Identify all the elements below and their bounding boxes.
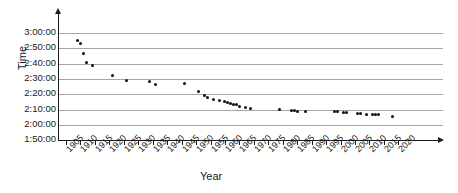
y-tick-label: 2:10:00 <box>4 104 56 114</box>
x-axis-arrow-icon <box>438 137 444 143</box>
data-point <box>296 110 299 113</box>
y-tick-label: 3:00:00 <box>4 27 56 37</box>
data-point <box>125 79 128 82</box>
data-point <box>197 90 200 93</box>
data-point <box>91 64 94 67</box>
data-point <box>183 82 186 85</box>
y-tick-label: 2:30:00 <box>4 73 56 83</box>
y-axis-line <box>58 14 59 140</box>
data-point <box>148 80 151 83</box>
gridline <box>58 94 443 95</box>
gridline <box>58 48 443 49</box>
data-point <box>359 112 362 115</box>
data-point <box>336 110 339 113</box>
data-point <box>377 113 380 116</box>
data-point <box>391 115 394 118</box>
gridline <box>58 64 443 65</box>
data-point <box>111 74 114 77</box>
gridline <box>58 125 443 126</box>
data-point <box>345 111 348 114</box>
y-axis-tick-labels: 3:00:002:50:002:40:002:30:002:20:002:10:… <box>0 0 56 193</box>
y-axis-arrow-icon <box>55 8 61 14</box>
gridline <box>58 79 443 80</box>
data-point <box>278 108 281 111</box>
y-tick-label: 2:50:00 <box>4 42 56 52</box>
data-point <box>238 105 241 108</box>
marathon-time-scatter-chart: Time 3:00:002:50:002:40:002:30:002:20:00… <box>0 0 458 193</box>
data-point <box>206 96 209 99</box>
data-point <box>212 98 215 101</box>
data-point <box>218 99 221 102</box>
y-tick-label: 2:40:00 <box>4 58 56 68</box>
data-point <box>154 83 157 86</box>
data-point <box>365 113 368 116</box>
y-tick-label: 1:50:00 <box>4 134 56 144</box>
gridline <box>58 33 443 34</box>
y-tick-label: 2:00:00 <box>4 119 56 129</box>
x-axis-title: Year <box>200 170 222 182</box>
data-point <box>82 52 85 55</box>
data-point <box>79 42 82 45</box>
y-tick-label: 2:20:00 <box>4 88 56 98</box>
